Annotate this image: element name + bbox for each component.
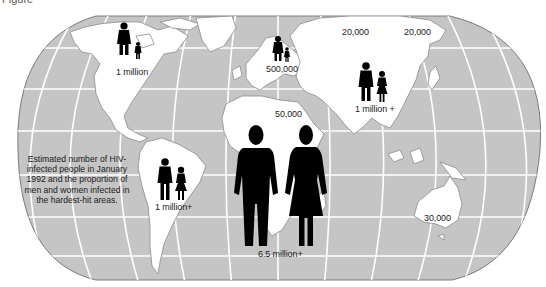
label-australia: 30,000 [424,213,451,223]
label-east-asia: 20,000 [404,27,431,37]
label-eastern-europe: 20,000 [342,27,369,37]
hiv-world-map-figure: Figure [0,0,546,287]
label-latin-america: 1 million+ [155,202,192,212]
label-sub-saharan-africa: 6.5 million+ [258,249,303,259]
label-north-america: 1 million [116,67,148,77]
label-middle-east: 50,000 [275,109,302,119]
label-europe: 500,000 [266,64,298,74]
label-south-asia: 1 million + [355,104,395,114]
map-caption: Estimated number of HIV-infected people … [18,154,136,205]
world-map [0,0,546,287]
